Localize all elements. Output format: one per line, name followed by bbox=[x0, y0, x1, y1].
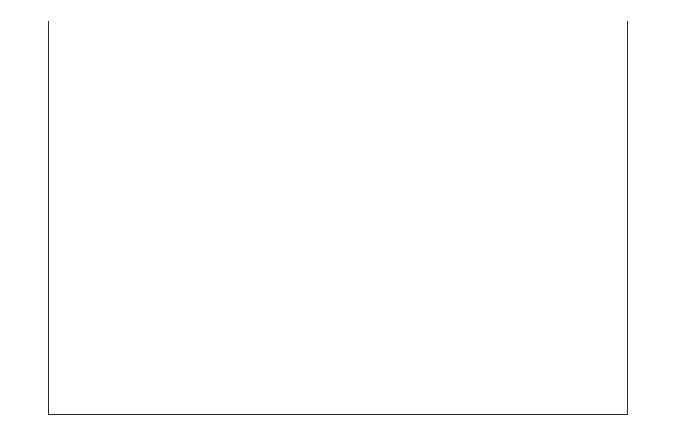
gridlines bbox=[49, 21, 627, 414]
water-withdrawals-chart bbox=[0, 0, 694, 445]
plot-area bbox=[48, 21, 628, 415]
